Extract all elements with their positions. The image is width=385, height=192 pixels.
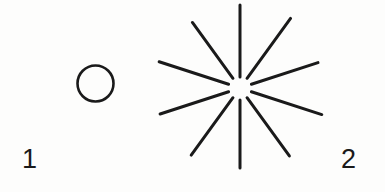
figure-label-left: 1 — [22, 146, 37, 173]
figure-container: 1 2 — [0, 0, 385, 192]
canvas-background — [0, 0, 385, 192]
figure-label-right: 2 — [341, 146, 356, 173]
line-drawing-canvas — [0, 0, 385, 192]
